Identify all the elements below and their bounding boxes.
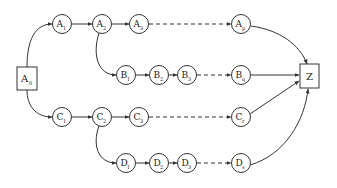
- end-node-Z: Z: [300, 64, 319, 88]
- edges: [27, 24, 308, 165]
- svg-text:3: 3: [188, 164, 191, 170]
- node-C2: C 2: [93, 108, 112, 127]
- node-C1: C 1: [53, 108, 72, 127]
- edge-C2-D1: [96, 126, 116, 163]
- svg-text:3: 3: [188, 76, 191, 82]
- start-node-A0: A 0: [17, 67, 37, 90]
- edge-A0-C1: [27, 90, 52, 117]
- node-D1: D 1: [117, 154, 136, 173]
- edge-A2-B1: [96, 33, 116, 75]
- node-A3: A 3: [130, 15, 149, 34]
- svg-text:1: 1: [127, 76, 130, 82]
- svg-text:2: 2: [103, 25, 106, 31]
- node-B3: B 3: [178, 66, 197, 85]
- process-diagram: A 0 Z A 1 A 2 A 3 A p B: [0, 0, 337, 188]
- svg-text:2: 2: [103, 118, 106, 124]
- node-Bq: B q: [232, 66, 251, 85]
- node-A1: A 1: [53, 15, 72, 34]
- node-D2: D 2: [150, 154, 169, 173]
- edge-Ds-Z: [250, 89, 308, 165]
- node-A2: A 2: [93, 15, 112, 34]
- svg-text:A: A: [20, 73, 29, 84]
- node-B1: B 1: [117, 66, 136, 85]
- svg-text:2: 2: [160, 76, 163, 82]
- svg-text:s: s: [242, 164, 245, 170]
- svg-text:0: 0: [29, 80, 32, 86]
- node-B2: B 2: [150, 66, 169, 85]
- edge-Cr-Z: [250, 81, 299, 114]
- node-Ds: D s: [232, 154, 251, 173]
- svg-text:Z: Z: [306, 71, 313, 82]
- node-Cr: C r: [232, 108, 251, 127]
- svg-text:1: 1: [63, 118, 66, 124]
- node-D3: D 3: [178, 154, 197, 173]
- svg-text:1: 1: [63, 25, 66, 31]
- svg-text:1: 1: [127, 164, 130, 170]
- node-Ap: A p: [232, 15, 251, 34]
- svg-text:2: 2: [160, 164, 163, 170]
- node-C3: C 3: [130, 108, 149, 127]
- edge-A0-A1: [27, 24, 52, 67]
- svg-text:p: p: [242, 25, 245, 32]
- svg-text:3: 3: [140, 118, 143, 124]
- edge-Ap-Z: [251, 26, 307, 64]
- svg-text:3: 3: [140, 25, 143, 31]
